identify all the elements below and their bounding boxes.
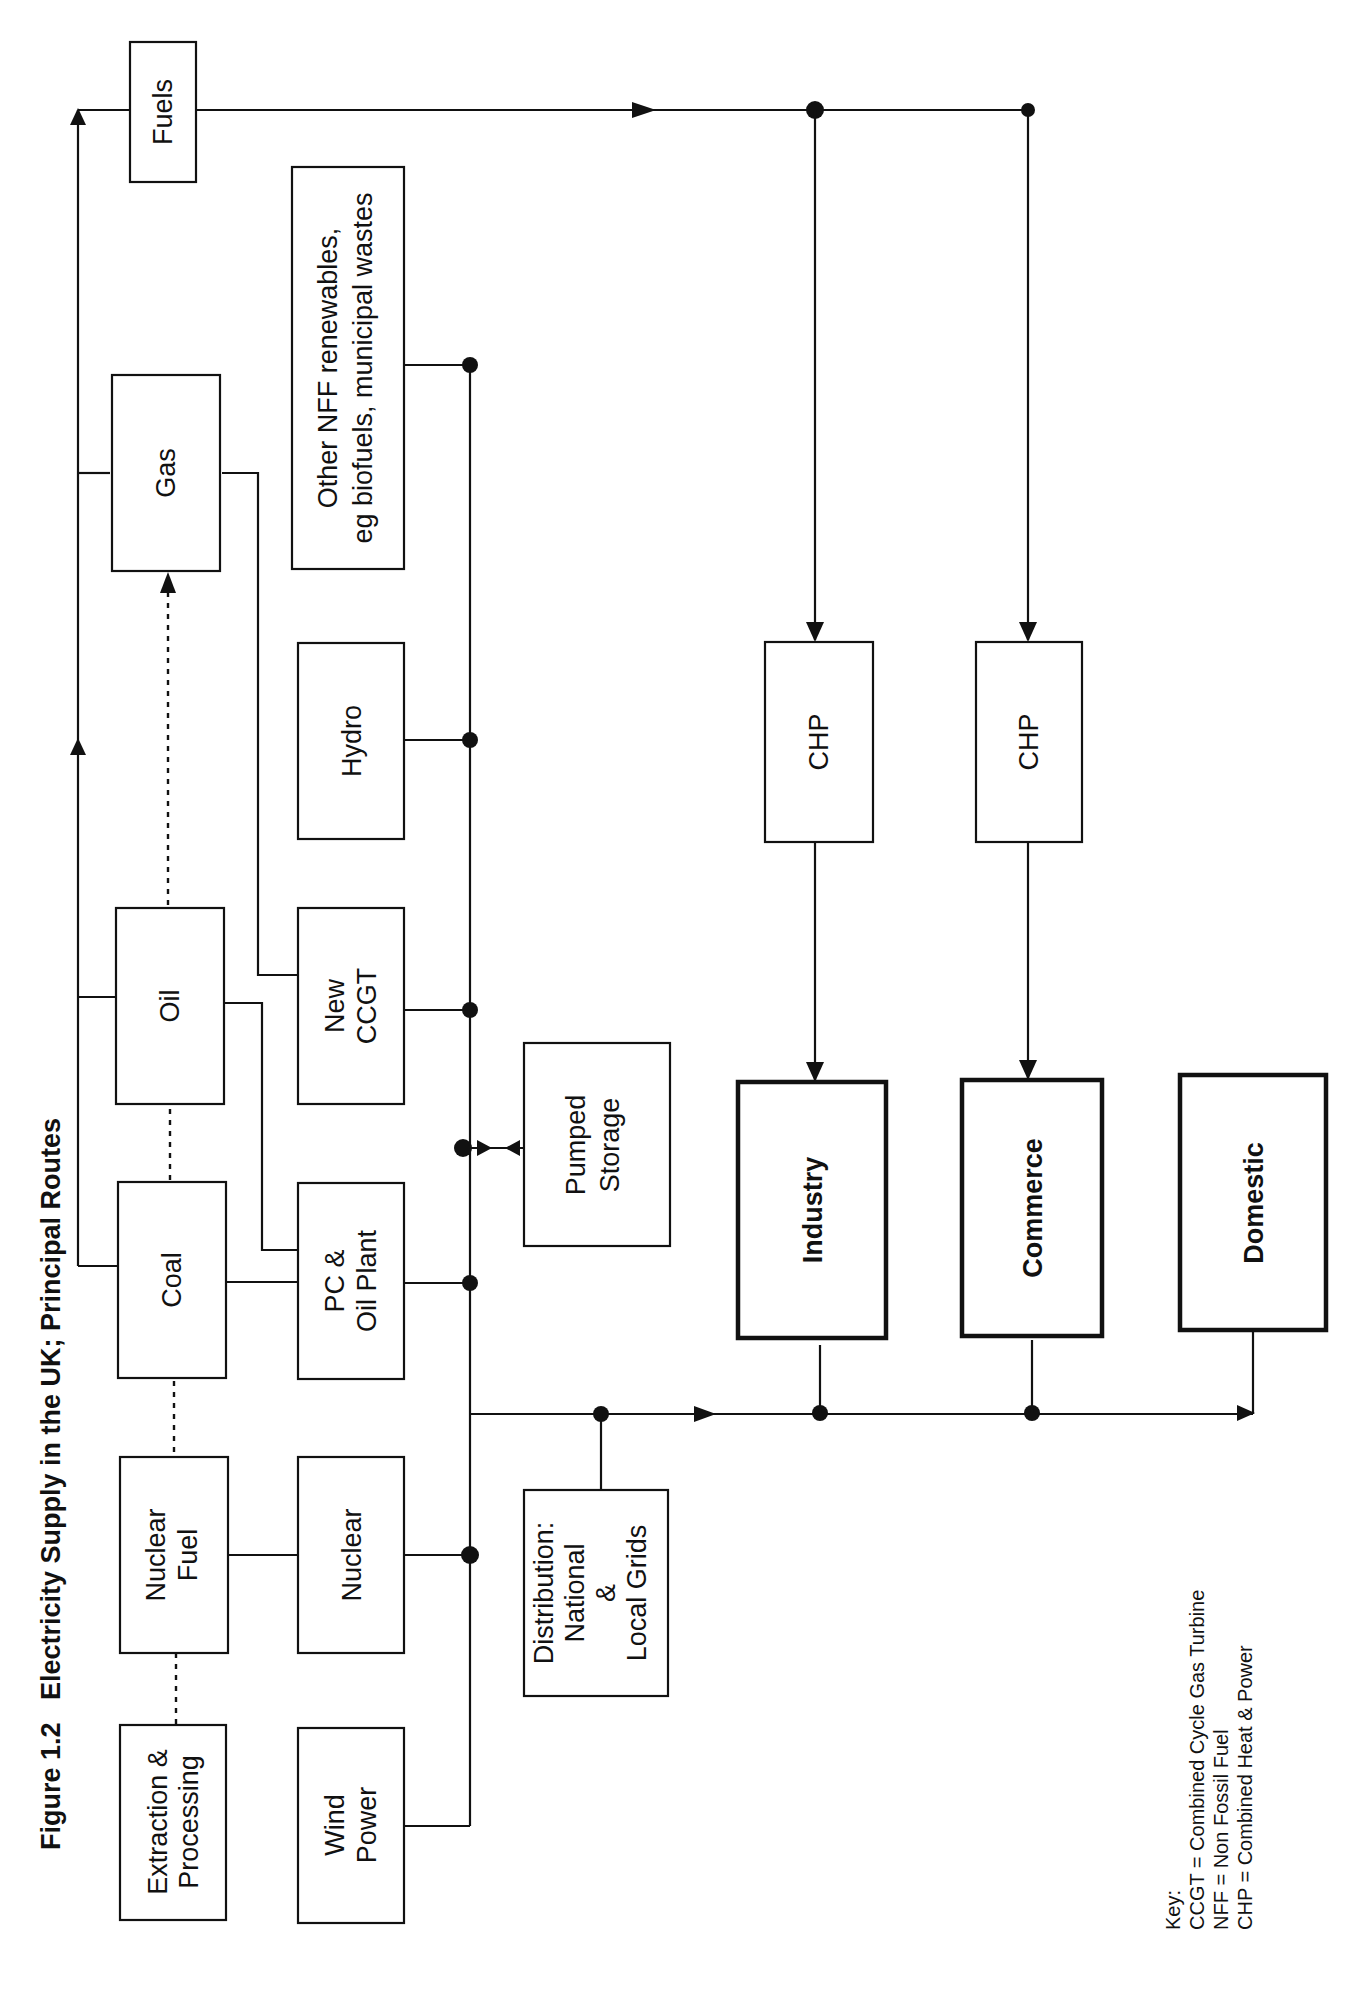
svg-text:Extraction &: Extraction & — [143, 1749, 173, 1895]
key-legend: Key: CCGT = Combined Cycle Gas Turbine N… — [1162, 1590, 1256, 1930]
node-oil: Oil — [116, 908, 224, 1104]
svg-text:eg biofuels, municipal wastes: eg biofuels, municipal wastes — [348, 192, 378, 543]
svg-text:CHP: CHP — [804, 713, 834, 770]
node-pumped-storage: Pumped Storage — [524, 1043, 670, 1246]
svg-text:Storage: Storage — [595, 1098, 625, 1193]
node-pc-oil-plant: PC & Oil Plant — [298, 1183, 404, 1379]
node-chp-industry: CHP — [765, 642, 873, 842]
node-coal: Coal — [118, 1182, 226, 1378]
svg-text:Gas: Gas — [151, 448, 181, 498]
node-domestic: Domestic — [1180, 1075, 1326, 1330]
svg-text:Processing: Processing — [174, 1755, 204, 1889]
svg-text:NFF = Non Fossil Fuel: NFF = Non Fossil Fuel — [1210, 1729, 1232, 1930]
svg-text:Other NFF renewables,: Other NFF renewables, — [313, 228, 343, 509]
svg-text:Oil Plant: Oil Plant — [352, 1229, 382, 1332]
node-chp-commerce: CHP — [976, 642, 1082, 842]
svg-text:Key:: Key: — [1162, 1890, 1184, 1930]
figure-title: Electricity Supply in the UK; Principal … — [36, 1118, 66, 1700]
svg-text:Coal: Coal — [157, 1252, 187, 1308]
node-hydro: Hydro — [298, 643, 404, 839]
svg-text:CCGT = Combined Cycle Gas Tur: CCGT = Combined Cycle Gas Turbine — [1186, 1590, 1208, 1930]
node-commerce: Commerce — [962, 1080, 1102, 1336]
arrow-up-icon — [70, 738, 86, 755]
svg-text:Commerce: Commerce — [1018, 1138, 1048, 1278]
svg-text:CCGT: CCGT — [352, 968, 382, 1045]
svg-text:Wind: Wind — [320, 1794, 350, 1856]
svg-text:&: & — [591, 1584, 621, 1602]
svg-text:Fuel: Fuel — [173, 1529, 203, 1582]
svg-text:Hydro: Hydro — [337, 705, 367, 777]
node-other-nff: Other NFF renewables, eg biofuels, munic… — [292, 167, 404, 569]
svg-text:Nuclear: Nuclear — [141, 1508, 171, 1601]
svg-text:Oil: Oil — [155, 990, 185, 1023]
node-gas: Gas — [112, 375, 220, 571]
electricity-supply-diagram: Figure 1.2 Electricity Supply in the UK;… — [0, 0, 1356, 1996]
svg-text:PC &: PC & — [320, 1249, 350, 1312]
svg-text:New: New — [320, 978, 350, 1033]
svg-text:CHP = Combined Heat & Power: CHP = Combined Heat & Power — [1234, 1645, 1256, 1930]
svg-text:Distribution:: Distribution: — [529, 1522, 559, 1665]
node-nuclear: Nuclear — [298, 1457, 404, 1653]
svg-text:Industry: Industry — [798, 1157, 828, 1264]
svg-text:Pumped: Pumped — [561, 1095, 591, 1196]
svg-text:CHP: CHP — [1014, 713, 1044, 770]
node-wind-power: Wind Power — [298, 1728, 404, 1923]
svg-text:National: National — [560, 1543, 590, 1642]
node-nuclear-fuel: Nuclear Fuel — [120, 1457, 228, 1653]
arrow-right-icon — [632, 102, 656, 118]
node-distribution: Distribution: National & Local Grids — [524, 1490, 668, 1696]
svg-text:Local Grids: Local Grids — [622, 1525, 652, 1662]
node-new-ccgt: New CCGT — [298, 908, 404, 1104]
node-industry: Industry — [738, 1082, 886, 1338]
node-fuels: Fuels — [130, 42, 196, 182]
svg-text:Fuels: Fuels — [148, 79, 178, 145]
svg-text:Domestic: Domestic — [1239, 1142, 1269, 1264]
figure-number: Figure 1.2 — [36, 1722, 66, 1850]
node-extraction: Extraction & Processing — [120, 1725, 226, 1920]
svg-text:Nuclear: Nuclear — [337, 1508, 367, 1601]
svg-text:Power: Power — [352, 1787, 382, 1864]
